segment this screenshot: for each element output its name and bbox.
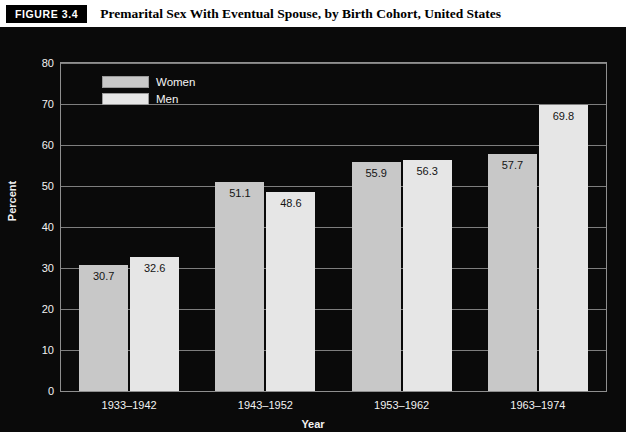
- figure-header: FIGURE 3.4 Premarital Sex With Eventual …: [0, 0, 626, 27]
- y-axis-tick-label: 60: [8, 139, 54, 151]
- bars-layer: 30.732.651.148.655.956.357.769.8: [61, 63, 606, 391]
- legend-swatch-men-icon: [102, 93, 149, 105]
- figure-title: Premarital Sex With Eventual Spouse, by …: [100, 6, 501, 22]
- bar-men-1933–1942: 32.6: [130, 257, 179, 391]
- bar-value-label: 32.6: [130, 262, 179, 274]
- x-axis-tick-label: 1943–1952: [238, 399, 293, 411]
- x-axis-tick-label: 1933–1942: [102, 399, 157, 411]
- chart-legend: Women Men: [102, 75, 222, 109]
- bar-women-1933–1942: 30.7: [79, 265, 128, 391]
- y-axis-tick-label: 70: [8, 98, 54, 110]
- chart-panel: 01020304050607080 Percent 30.732.651.148…: [0, 27, 626, 432]
- y-axis-tick-label: 80: [8, 57, 54, 69]
- legend-label-men: Men: [156, 93, 178, 105]
- bar-women-1943–1952: 51.1: [215, 182, 264, 392]
- bar-value-label: 57.7: [488, 159, 537, 171]
- bar-women-1953–1962: 55.9: [352, 162, 401, 391]
- y-axis-tick-label: 30: [8, 262, 54, 274]
- bar-men-1943–1952: 48.6: [266, 192, 315, 391]
- bar-men-1963–1974: 69.8: [539, 105, 588, 391]
- y-axis-tick-label: 0: [8, 385, 54, 397]
- x-axis-tick-label: 1953–1962: [374, 399, 429, 411]
- legend-swatch-women-icon: [102, 76, 149, 88]
- bar-value-label: 51.1: [215, 187, 264, 199]
- bar-value-label: 30.7: [79, 270, 128, 282]
- x-axis-title: Year: [0, 418, 626, 430]
- figure-number-badge: FIGURE 3.4: [6, 5, 87, 23]
- legend-item-men: Men: [102, 92, 222, 105]
- bar-value-label: 69.8: [539, 110, 588, 122]
- legend-label-women: Women: [156, 76, 195, 88]
- bar-value-label: 48.6: [266, 197, 315, 209]
- y-axis-tick-label: 20: [8, 303, 54, 315]
- x-axis-tick-labels: 1933–19421943–19521953–19621963–1974: [60, 399, 607, 415]
- bar-value-label: 56.3: [403, 165, 452, 177]
- y-axis-tick-label: 10: [8, 344, 54, 356]
- y-axis-title: Percent: [6, 161, 18, 241]
- bar-men-1953–1962: 56.3: [403, 160, 452, 391]
- x-axis-tick-label: 1963–1974: [510, 399, 565, 411]
- bar-value-label: 55.9: [352, 167, 401, 179]
- bar-women-1963–1974: 57.7: [488, 154, 537, 391]
- legend-item-women: Women: [102, 75, 222, 88]
